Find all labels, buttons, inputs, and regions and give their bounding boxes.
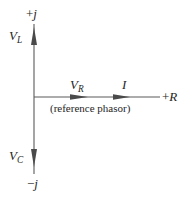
vr-arrowhead-icon (70, 94, 88, 100)
vc-symbol: V (9, 148, 17, 163)
vl-arrowhead-icon (31, 27, 37, 45)
phasor-label-vc: VC (9, 149, 23, 165)
minus-j-symbol: j (34, 176, 38, 191)
vc-arrowhead-icon (31, 149, 37, 167)
phasor-label-i: I (122, 78, 126, 91)
axis-label-positive-imaginary: +j (26, 7, 37, 20)
phasor-label-vr: VR (70, 78, 84, 94)
axis-label-negative-imaginary: −j (27, 177, 38, 190)
plus-j-symbol: j (33, 6, 37, 21)
vr-subscript: R (78, 84, 84, 94)
phasor-diagram-figure: +j −j +R VL VC VR I (reference phasor) (0, 0, 192, 198)
vl-symbol: V (9, 28, 17, 43)
plus-r-symbol: R (169, 89, 177, 104)
i-symbol: I (122, 77, 126, 92)
vc-subscript: C (17, 155, 23, 165)
vl-subscript: L (17, 35, 22, 45)
i-arrowhead-icon (113, 94, 130, 100)
vr-symbol: V (70, 77, 78, 92)
axis-label-positive-real: +R (162, 90, 177, 103)
phasor-label-vl: VL (9, 29, 22, 45)
reference-phasor-note: (reference phasor) (50, 103, 130, 114)
